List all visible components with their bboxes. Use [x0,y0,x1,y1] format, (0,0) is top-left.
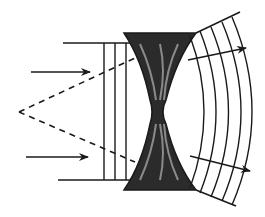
emerging-arrow-upper [188,48,246,60]
concave-lens [124,33,196,190]
diverging-lens-diagram [0,0,265,217]
diverging-wavefronts [190,17,252,205]
virtual-ray-lower [19,112,135,162]
emerging-bottom-edge [196,190,236,206]
virtual-ray-upper [19,58,135,112]
emerging-top-edge [196,12,240,33]
